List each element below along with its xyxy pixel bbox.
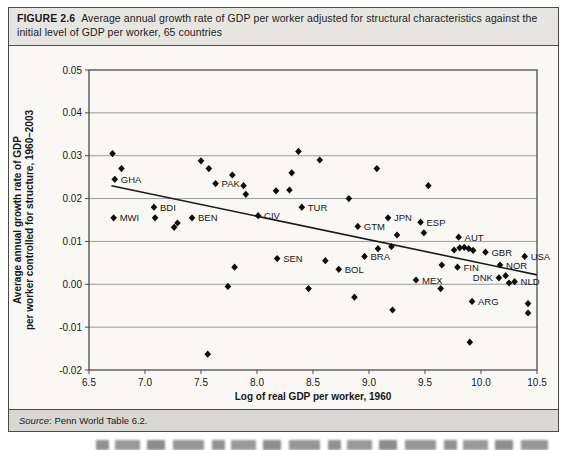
- country-label: MWI: [120, 212, 140, 223]
- data-point: [506, 279, 513, 286]
- data-point: [417, 218, 424, 225]
- figure-box: FIGURE 2.6Average annual growth rate of …: [8, 7, 559, 432]
- data-point: [351, 293, 358, 300]
- data-point: [525, 309, 532, 316]
- data-point: [482, 248, 489, 255]
- x-axis-title: Log of real GDP per worker, 1960: [235, 391, 392, 402]
- country-label: GTM: [364, 221, 385, 232]
- y-tick-label: -0.01: [59, 321, 82, 332]
- data-point: [469, 298, 476, 305]
- data-point: [374, 165, 381, 172]
- chart-area: 0.050.040.030.020.010.00-0.01-0.026.57.0…: [9, 46, 558, 420]
- data-point: [421, 229, 428, 236]
- country-label: ARG: [478, 296, 499, 307]
- data-point: [198, 157, 205, 164]
- data-point: [206, 165, 213, 172]
- data-point: [425, 182, 432, 189]
- y-tick-label: 0.03: [63, 150, 83, 161]
- data-point: [389, 306, 396, 313]
- cropped-body-text-line: [96, 440, 548, 450]
- country-label: NLD: [521, 276, 540, 287]
- country-label: ESP: [427, 216, 446, 227]
- country-label: GBR: [491, 246, 512, 257]
- country-label: BEN: [198, 212, 218, 223]
- figure-title: Average annual growth rate of GDP per wo…: [17, 12, 537, 38]
- data-point: [288, 169, 295, 176]
- data-point: [255, 212, 262, 219]
- data-point: [240, 182, 247, 189]
- data-point: [451, 246, 458, 253]
- data-point: [273, 187, 280, 194]
- data-point: [212, 180, 219, 187]
- country-label: BRA: [371, 251, 391, 262]
- data-point: [189, 214, 196, 221]
- source-text: : Penn World Table 6.2.: [49, 415, 147, 426]
- country-label: USA: [531, 251, 551, 262]
- data-point: [322, 257, 329, 264]
- data-point: [454, 263, 461, 270]
- country-label: SEN: [283, 253, 303, 264]
- source-bar: Source: Penn World Table 6.2.: [9, 409, 558, 431]
- data-point: [394, 231, 401, 238]
- data-point: [496, 274, 503, 281]
- data-point: [502, 272, 509, 279]
- x-tick-label: 10.5: [527, 377, 547, 388]
- data-point: [355, 223, 362, 230]
- data-point: [467, 338, 474, 345]
- data-point: [361, 253, 368, 260]
- y-axis-title-line1: Average annual growth rate of GDP: [12, 135, 23, 303]
- data-point: [439, 261, 446, 268]
- data-point: [385, 214, 392, 221]
- data-point: [152, 214, 159, 221]
- country-label: DNK: [473, 272, 494, 283]
- y-tick-label: 0.02: [63, 193, 83, 204]
- data-point: [525, 300, 532, 307]
- country-label: NOR: [506, 259, 527, 270]
- x-tick-label: 6.5: [82, 377, 96, 388]
- data-point: [461, 244, 468, 251]
- x-tick-label: 8.5: [306, 377, 320, 388]
- data-point: [274, 255, 281, 262]
- data-point: [335, 265, 342, 272]
- x-tick-label: 9.5: [418, 377, 432, 388]
- y-tick-label: 0.01: [63, 236, 83, 247]
- country-label: AUT: [465, 231, 484, 242]
- country-label: JPN: [394, 212, 412, 223]
- data-point: [231, 263, 238, 270]
- figure-caption: FIGURE 2.6Average annual growth rate of …: [9, 8, 558, 46]
- source-label: Source: [19, 415, 49, 426]
- data-point: [111, 175, 118, 182]
- country-label: FIN: [463, 261, 478, 272]
- x-tick-label: 7.0: [138, 377, 152, 388]
- data-point: [110, 214, 117, 221]
- figure-number: FIGURE 2.6: [17, 12, 75, 24]
- data-point: [243, 190, 250, 197]
- y-tick-label: 0.05: [63, 64, 83, 75]
- data-point: [151, 203, 158, 210]
- x-tick-label: 9.0: [362, 377, 376, 388]
- y-tick-label: 0.04: [63, 107, 83, 118]
- scatter-chart: 0.050.040.030.020.010.00-0.01-0.026.57.0…: [9, 46, 557, 416]
- data-point: [346, 195, 353, 202]
- country-label: PAK: [222, 178, 241, 189]
- x-tick-label: 8.0: [250, 377, 264, 388]
- x-tick-label: 10.0: [471, 377, 491, 388]
- country-label: BDI: [160, 201, 176, 212]
- y-tick-label: -0.02: [59, 364, 82, 375]
- data-point: [295, 148, 302, 155]
- y-tick-label: 0.00: [63, 279, 83, 290]
- country-label: TUR: [308, 201, 328, 212]
- country-label: CIV: [264, 210, 281, 221]
- x-tick-label: 7.5: [194, 377, 208, 388]
- data-point: [413, 276, 420, 283]
- data-point: [204, 350, 211, 357]
- data-point: [437, 285, 444, 292]
- country-label: GHA: [121, 174, 142, 185]
- data-point: [305, 285, 312, 292]
- country-label: MEX: [422, 274, 443, 285]
- data-point: [118, 165, 125, 172]
- data-point: [316, 156, 323, 163]
- country-label: BOL: [345, 264, 364, 275]
- data-point: [299, 203, 306, 210]
